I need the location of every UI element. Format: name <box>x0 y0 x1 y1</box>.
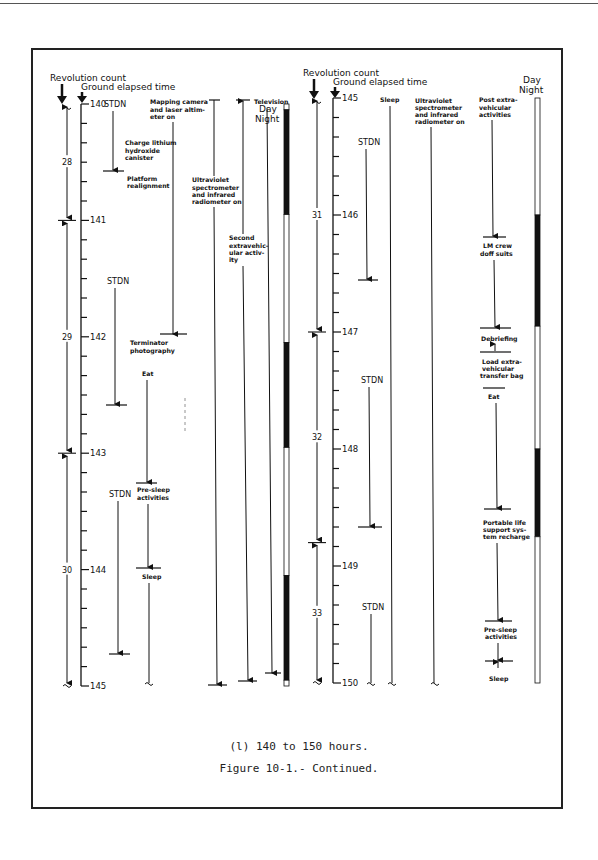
day-segment <box>284 447 289 575</box>
night-segment <box>284 110 289 215</box>
pre-sleep-label-right: Pre-sleepactivities <box>484 626 518 640</box>
get-arrow-icon-right <box>330 87 340 98</box>
television-arrow <box>267 108 272 673</box>
terminator-photography-label: Terminatorphotography <box>130 339 175 355</box>
revolution-label: 28 <box>62 158 72 167</box>
timeline-diagram: Revolution count Ground elapsed time Day… <box>0 0 598 860</box>
right-day-night-bar <box>535 98 540 683</box>
night-segment <box>535 449 540 537</box>
night-label-right: Night <box>519 85 544 95</box>
stdn-arrow-right-2 <box>369 387 370 526</box>
break-icon <box>63 685 71 688</box>
eat-label: Eat <box>142 370 153 377</box>
right-revolution-axis: 313233 <box>308 101 326 685</box>
left-day-night-bar <box>284 104 289 686</box>
charge-lithium-label: Charge lithiumhydroxidecanister <box>125 139 177 161</box>
break-icon <box>313 682 321 685</box>
revolution-arrow-icon-right <box>309 79 319 99</box>
get-tick-label: 148 <box>342 444 358 454</box>
lm-crew-arrow <box>494 260 495 327</box>
get-tick-label: 146 <box>342 210 358 220</box>
sleep-label: Sleep <box>142 573 162 581</box>
revolution-label: 30 <box>62 566 72 575</box>
right-get-axis: 145146147148149150 <box>333 93 358 688</box>
day-segment <box>535 537 540 683</box>
lm-crew-label: LM crewdoff suits <box>480 242 513 257</box>
stdn-label-right-3: STDN <box>362 603 384 612</box>
plss-arrow <box>497 543 498 620</box>
load-eva-bag-label: Load extra-vehiculartransfer bag <box>480 358 523 380</box>
day-segment <box>284 104 289 110</box>
night-segment <box>535 215 540 326</box>
stdn-arrow-right <box>366 149 367 279</box>
get-tick-label: 145 <box>342 93 358 103</box>
stdn-label-2: STDN <box>107 277 129 286</box>
get-tick-label: 143 <box>90 448 106 458</box>
day-segment <box>284 680 289 686</box>
platform-realignment-label: Platformrealignment <box>127 175 170 190</box>
ground-elapsed-time-header: Ground elapsed time <box>81 82 176 92</box>
get-arrow-icon <box>77 92 87 103</box>
left-activities: STDN Charge lithiumhydroxidecanister Pla… <box>103 98 289 686</box>
post-eva-arrow <box>492 120 493 236</box>
revolution-label: 33 <box>312 609 322 618</box>
plss-recharge-label: Portable lifesupport sys-tem recharge <box>483 519 530 541</box>
television-label: Television <box>254 98 289 105</box>
sleep-top-label: Sleep <box>380 96 400 104</box>
uv-line-right <box>431 127 434 683</box>
day-segment <box>535 326 540 449</box>
get-tick-label: 147 <box>342 327 358 337</box>
stdn-label: STDN <box>104 100 126 109</box>
stdn-label-right: STDN <box>358 138 380 147</box>
eat-arrow-right <box>496 403 497 508</box>
night-segment <box>284 343 289 448</box>
revolution-label: 32 <box>312 433 322 442</box>
left-revolution-axis: 282930 <box>58 107 76 688</box>
night-segment <box>284 575 289 680</box>
second-eva-label: Secondextravehic-ular activ-ity <box>229 234 269 264</box>
get-tick-label: 150 <box>342 678 358 688</box>
day-label: Day <box>259 104 277 114</box>
day-segment <box>535 98 540 215</box>
debriefing-label: Debriefing <box>481 335 518 343</box>
get-tick-label: 142 <box>90 332 106 342</box>
ground-elapsed-time-header-right: Ground elapsed time <box>333 77 428 87</box>
revolution-label: 31 <box>312 211 322 220</box>
second-eva-arrow <box>243 266 248 680</box>
right-activities: Sleep Ultravioletspectrometerand infrare… <box>358 96 530 686</box>
uv-spectrometer-label: Ultravioletspectrometerand infraredradio… <box>192 176 242 205</box>
post-eva-label: Post extra-vehicularactivities <box>479 96 518 118</box>
left-get-axis: 140141142143144145 <box>81 99 106 691</box>
uv-arrow <box>214 207 217 684</box>
pre-sleep-label: Pre-sleepactivities <box>137 486 171 501</box>
get-tick-label: 141 <box>90 215 106 225</box>
revolution-label: 29 <box>62 333 72 342</box>
uv-spectrometer-label-right: Ultravioletspectrometerand infraredradio… <box>415 97 465 125</box>
mapping-camera-label: Mapping cameraand laser altim-eter on <box>150 98 208 120</box>
get-tick-label: 145 <box>90 681 106 691</box>
eat-label-right: Eat <box>488 393 499 400</box>
day-segment <box>284 215 289 343</box>
get-tick-label: 149 <box>342 561 358 571</box>
figure-subtitle: (l) 140 to 150 hours. <box>0 740 598 753</box>
day-label-right: Day <box>523 75 541 85</box>
figure-caption: Figure 10-1.- Continued. <box>0 762 598 775</box>
get-tick-label: 144 <box>90 565 106 575</box>
sleep-top-line <box>390 106 392 683</box>
stdn-label-3: STDN <box>109 490 131 499</box>
stdn-label-right-2: STDN <box>361 376 383 385</box>
uv-continue-icon <box>431 683 439 686</box>
sleep-label-right: Sleep <box>489 675 509 683</box>
revolution-arrow-icon <box>57 84 67 104</box>
